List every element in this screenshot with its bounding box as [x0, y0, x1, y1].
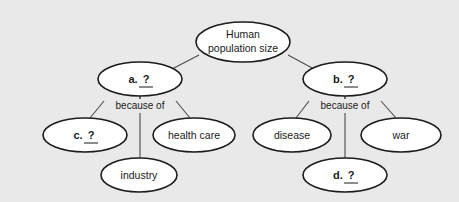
- connector-right-label-to-war: [381, 101, 396, 118]
- node-label: health care: [168, 129, 220, 141]
- connector-root-to-a: [172, 55, 199, 69]
- node-label-line1: Human: [226, 28, 260, 40]
- node-label: war: [392, 129, 410, 141]
- node-ellipse: [43, 118, 127, 152]
- edge-label-text: because of: [321, 100, 370, 111]
- node-label-blank: ?: [88, 129, 95, 141]
- node-label-prefix: b.: [333, 73, 343, 85]
- node-ellipse: [98, 62, 182, 96]
- node-label-line2: population size: [208, 42, 278, 54]
- node-label-prefix: a.: [128, 73, 137, 85]
- node-label: disease: [274, 129, 310, 141]
- node-c-blank[interactable]: c. ?: [43, 118, 127, 152]
- node-label-prefix: d.: [333, 169, 343, 181]
- connector-root-to-b: [288, 55, 314, 69]
- node-industry[interactable]: industry: [101, 158, 177, 192]
- node-label-prefix: c.: [73, 129, 82, 141]
- connector-right-label-to-disease: [296, 101, 309, 118]
- node-ellipse: [303, 62, 387, 96]
- node-label: industry: [121, 169, 159, 181]
- concept-map-diagram: Human population size a. ? b. ? because …: [0, 0, 459, 202]
- connector-left-label-to-health-care: [176, 101, 190, 118]
- node-b-blank[interactable]: b. ?: [303, 62, 387, 96]
- node-label-blank: ?: [348, 73, 355, 85]
- node-d-blank[interactable]: d. ?: [303, 158, 387, 192]
- node-label-blank: ?: [348, 169, 355, 181]
- edge-label-right-because-of: because of: [313, 99, 377, 113]
- node-disease[interactable]: disease: [253, 118, 331, 152]
- node-war[interactable]: war: [361, 118, 441, 152]
- node-human-population-size[interactable]: Human population size: [196, 22, 290, 62]
- edge-label-left-because-of: because of: [108, 99, 172, 113]
- edge-label-text: because of: [116, 100, 165, 111]
- node-health-care[interactable]: health care: [153, 118, 235, 152]
- node-ellipse: [303, 158, 387, 192]
- node-a-blank[interactable]: a. ?: [98, 62, 182, 96]
- node-label-blank: ?: [143, 73, 150, 85]
- connector-left-label-to-c: [90, 101, 104, 118]
